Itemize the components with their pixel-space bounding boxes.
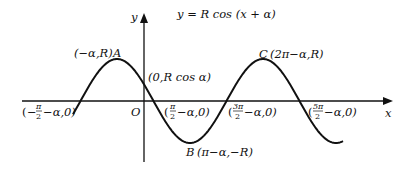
point-b-name: B <box>185 145 194 159</box>
cosine-graph: y x O y = R cos (x + α) (−α,R) A (0,R co… <box>0 0 394 169</box>
svg-text:2: 2 <box>235 112 240 121</box>
svg-text:π: π <box>35 102 42 111</box>
x-axis-label: x <box>385 106 392 120</box>
point-c-label: (2π−α,R) <box>270 47 324 61</box>
y-axis-label: y <box>130 10 138 24</box>
svg-text:(: ( <box>22 105 27 119</box>
svg-text:(: ( <box>164 105 169 119</box>
svg-text:5π: 5π <box>313 102 324 111</box>
point-b-label: (π−α,−R) <box>197 145 253 159</box>
svg-text:(: ( <box>308 105 313 119</box>
svg-text:−α,0): −α,0) <box>244 105 277 119</box>
x-intercept-label-2: ( π 2 −α,0) <box>164 102 210 121</box>
equation-label: y = R cos (x + α) <box>176 7 276 21</box>
point-a-name: A <box>112 46 121 60</box>
point-c-name: C <box>259 47 268 61</box>
y-intercept-label: (0,R cos α) <box>148 70 211 84</box>
svg-text:2: 2 <box>315 112 320 121</box>
svg-text:2: 2 <box>36 112 41 121</box>
svg-text:π: π <box>169 102 176 111</box>
x-intercept-label-3: ( 3π 2 −α,0) <box>228 102 277 121</box>
svg-text:2: 2 <box>170 112 175 121</box>
point-a-label: (−α,R) <box>74 46 113 60</box>
x-intercept-label-4: ( 5π 2 −α,0) <box>308 102 357 121</box>
origin-label: O <box>131 105 141 119</box>
y-axis-arrow-icon <box>140 13 148 23</box>
svg-text:−α,0): −α,0) <box>177 105 210 119</box>
x-axis-arrow-icon <box>383 97 393 105</box>
x-intercept-label-1: ( − π 2 −α,0) <box>22 102 76 121</box>
svg-text:−α,0): −α,0) <box>43 105 76 119</box>
svg-text:3π: 3π <box>233 102 244 111</box>
svg-text:−α,0): −α,0) <box>324 105 357 119</box>
svg-text:(: ( <box>228 105 233 119</box>
